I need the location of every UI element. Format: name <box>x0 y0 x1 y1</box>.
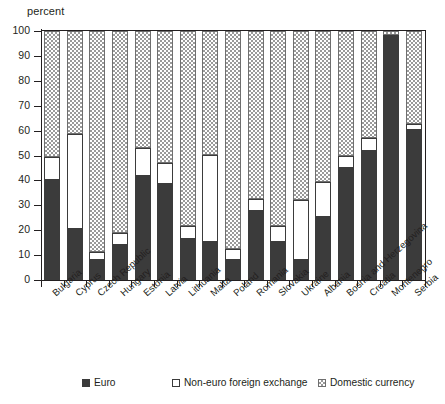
y-axis-label-50: 50 <box>6 149 30 161</box>
segment-domestic-currency[interactable] <box>89 31 105 252</box>
bar-lithuania[interactable] <box>180 31 196 280</box>
y-axis-label-10: 10 <box>6 248 30 260</box>
legend-item-domestic-currency[interactable]: Domestic currency <box>318 377 414 388</box>
segment-non-euro-fx[interactable] <box>270 226 286 242</box>
y-axis-label-90: 90 <box>6 49 30 61</box>
y-axis-title: percent <box>27 5 64 17</box>
legend-label: Non-euro foreign exchange <box>184 377 307 388</box>
y-axis-label-20: 20 <box>6 223 30 235</box>
y-axis-label-40: 40 <box>6 173 30 185</box>
segment-domestic-currency[interactable] <box>270 31 286 226</box>
segment-domestic-currency[interactable] <box>293 31 309 200</box>
y-axis-tick-80 <box>34 81 41 82</box>
y-axis-label-30: 30 <box>6 198 30 210</box>
segment-domestic-currency[interactable] <box>406 31 422 124</box>
segment-non-euro-fx[interactable] <box>180 226 196 239</box>
legend-label: Euro <box>94 377 116 388</box>
y-axis-tick-40 <box>34 180 41 181</box>
legend-item-euro[interactable]: Euro <box>82 377 116 388</box>
segment-domestic-currency[interactable] <box>157 31 173 163</box>
legend-label: Domestic currency <box>330 377 414 388</box>
y-axis-tick-70 <box>34 106 41 107</box>
segment-non-euro-fx[interactable] <box>202 155 218 242</box>
segment-non-euro-fx[interactable] <box>67 134 83 228</box>
bar-latvia[interactable] <box>157 31 173 280</box>
segment-non-euro-fx[interactable] <box>248 199 264 211</box>
chart-legend: EuroNon-euro foreign exchangeDomestic cu… <box>0 377 445 397</box>
plot-area <box>41 31 425 280</box>
y-axis-tick-10 <box>34 255 41 256</box>
segment-non-euro-fx[interactable] <box>89 252 105 260</box>
y-axis-tick-20 <box>34 230 41 231</box>
segment-domestic-currency[interactable] <box>44 31 60 157</box>
segment-non-euro-fx[interactable] <box>225 249 241 259</box>
segment-domestic-currency[interactable] <box>315 31 331 182</box>
bar-slovakia[interactable] <box>270 31 286 280</box>
segment-domestic-currency[interactable] <box>112 31 128 233</box>
segment-domestic-currency[interactable] <box>338 31 354 156</box>
bar-poland[interactable] <box>225 31 241 280</box>
y-axis-label-0: 0 <box>6 273 30 285</box>
segment-euro[interactable] <box>406 130 422 280</box>
bar-bulgaria[interactable] <box>44 31 60 280</box>
y-axis-tick-50 <box>34 156 41 157</box>
y-axis-label-100: 100 <box>6 24 30 36</box>
segment-domestic-currency[interactable] <box>180 31 196 226</box>
bar-bosnia-and-herzegovina[interactable] <box>338 31 354 280</box>
bar-cyprus[interactable] <box>67 31 83 280</box>
y-axis-tick-100 <box>34 31 41 32</box>
segment-domestic-currency[interactable] <box>135 31 151 148</box>
bar-hungary[interactable] <box>112 31 128 280</box>
segment-non-euro-fx[interactable] <box>315 182 331 217</box>
bar-albania[interactable] <box>315 31 331 280</box>
segment-non-euro-fx[interactable] <box>157 163 173 184</box>
x-axis-labels: BulgariaCyprusCzech RepublicHungaryEston… <box>0 288 445 368</box>
y-axis-tick-90 <box>34 56 41 57</box>
segment-domestic-currency[interactable] <box>67 31 83 134</box>
segment-domestic-currency[interactable] <box>202 31 218 155</box>
segment-non-euro-fx[interactable] <box>112 233 128 245</box>
y-axis-tick-60 <box>34 131 41 132</box>
y-axis-tick-0 <box>34 280 41 281</box>
segment-euro[interactable] <box>44 180 60 280</box>
non-euro-swatch-icon <box>172 379 180 387</box>
domestic-swatch-icon <box>318 379 326 387</box>
stacked-bar-chart: percent 1009080706050403020100 BulgariaC… <box>0 0 445 404</box>
x-axis-tick-0 <box>41 281 42 287</box>
segment-euro[interactable] <box>338 168 354 280</box>
legend-item-non-euro-foreign-exchange[interactable]: Non-euro foreign exchange <box>172 377 307 388</box>
plot-right-border <box>425 30 426 281</box>
euro-swatch-icon <box>82 379 90 387</box>
bar-croatia[interactable] <box>361 31 377 280</box>
segment-euro[interactable] <box>157 184 173 280</box>
bar-czech-republic[interactable] <box>89 31 105 280</box>
segment-euro[interactable] <box>361 151 377 280</box>
bar-romania[interactable] <box>248 31 264 280</box>
segment-non-euro-fx[interactable] <box>338 156 354 168</box>
segment-non-euro-fx[interactable] <box>293 200 309 261</box>
segment-euro[interactable] <box>248 211 264 280</box>
bar-malta[interactable] <box>202 31 218 280</box>
y-axis-label-60: 60 <box>6 124 30 136</box>
segment-domestic-currency[interactable] <box>248 31 264 199</box>
segment-domestic-currency[interactable] <box>361 31 377 138</box>
y-axis-label-70: 70 <box>6 99 30 111</box>
bar-estonia[interactable] <box>135 31 151 280</box>
y-axis-tick-30 <box>34 205 41 206</box>
segment-non-euro-fx[interactable] <box>135 148 151 176</box>
segment-non-euro-fx[interactable] <box>44 157 60 180</box>
segment-domestic-currency[interactable] <box>225 31 241 249</box>
y-axis-label-80: 80 <box>6 74 30 86</box>
bar-ukraine[interactable] <box>293 31 309 280</box>
segment-non-euro-fx[interactable] <box>361 138 377 151</box>
